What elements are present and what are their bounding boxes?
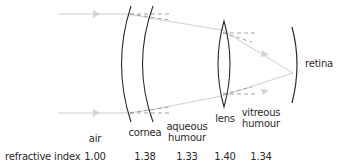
normal-lines [130,14,258,113]
arrowhead-icon [93,10,100,18]
cornea [122,6,154,122]
refractive-index-row-label: refractive index [5,151,80,162]
light-rays [58,14,293,113]
arrowhead-icon [93,109,100,117]
arrowhead-icon [261,50,269,57]
medium-vitreous-humour-label: vitreous humour [238,107,284,129]
arrowhead-icon [261,89,269,95]
refractive-index-air: 1.00 [80,151,110,162]
arrowheads [93,10,269,117]
refractive-index-lens: 1.40 [212,151,238,162]
medium-cornea-label: cornea [125,127,165,138]
refracted-ray-top [128,14,293,73]
retina [292,27,297,103]
refractive-index-vitreous-humour: 1.34 [238,151,284,162]
medium-lens-label: lens [212,113,238,124]
retina-label: retina [305,58,333,69]
refractive-index-cornea: 1.38 [125,151,165,162]
medium-air-label: air [80,133,110,144]
medium-aqueous-humour-label: aqueous humour [164,121,210,143]
refractive-index-aqueous-humour: 1.33 [164,151,210,162]
cornea-outer-surface [122,6,132,122]
cornea-inner-surface [143,6,154,122]
